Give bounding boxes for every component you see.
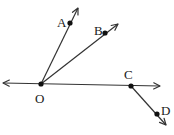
label-C: C	[124, 67, 133, 82]
label-A: A	[57, 15, 67, 30]
label-B: B	[94, 23, 103, 38]
labels-layer: OABCD	[35, 15, 170, 118]
line-OC	[3, 83, 160, 86]
point-A	[67, 20, 72, 25]
point-B	[102, 30, 107, 35]
label-D: D	[161, 103, 170, 118]
point-O	[38, 81, 43, 86]
lines-layer	[3, 80, 160, 89]
label-O: O	[35, 91, 44, 106]
point-D	[154, 111, 159, 116]
geometry-diagram: OABCD	[0, 0, 174, 135]
point-C	[128, 83, 133, 88]
